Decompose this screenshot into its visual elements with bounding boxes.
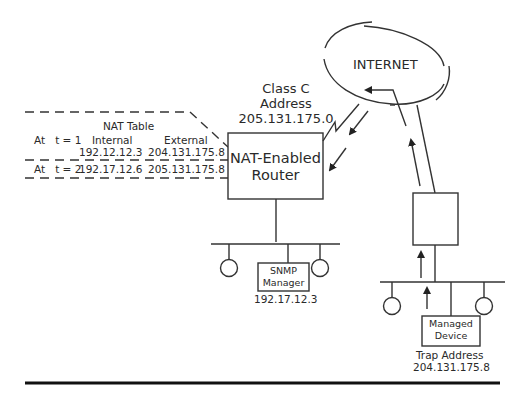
host-icon	[476, 298, 493, 315]
managed-device-label: Managed Device	[422, 318, 480, 342]
nat-row-2-external: 205.131.175.8	[148, 163, 225, 175]
edge-device-box	[413, 193, 458, 245]
trap-address-label: Trap Address	[416, 349, 483, 361]
managed-line2: Device	[422, 330, 480, 342]
nat-table-title: NAT Table	[103, 120, 154, 132]
router-label: NAT-Enabled Router	[228, 150, 323, 184]
managed-line1: Managed	[422, 318, 480, 330]
internet-label: INTERNET	[353, 57, 418, 72]
snmp-manager-address: 192.17.12.3	[254, 293, 317, 305]
trap-address-value: 204.131.175.8	[413, 361, 490, 373]
host-icon	[384, 298, 401, 315]
arrow-icon	[330, 148, 346, 170]
snmp-manager-label: SNMP Manager	[258, 265, 309, 289]
host-icon	[221, 260, 238, 277]
nat-row-1-time: At t = 1	[34, 134, 81, 146]
class-c-address: 205.131.175.0	[236, 111, 336, 126]
arrow-icon	[366, 90, 406, 126]
nat-row-2-internal: 192.17.12.6	[79, 163, 142, 175]
nat-row-1-internal: 192.12.12.3	[79, 146, 142, 158]
snmp-line1: SNMP	[258, 265, 309, 277]
nat-col-external: External	[164, 134, 208, 146]
class-c-label: Class C Address 205.131.175.0	[236, 81, 336, 126]
host-icon	[312, 260, 329, 277]
arrow-icon	[350, 111, 368, 134]
arrow-icon	[411, 140, 420, 186]
router-line1: NAT-Enabled	[228, 150, 323, 167]
router-line2: Router	[228, 167, 323, 184]
nat-row-2-time: At t = 2	[34, 163, 81, 175]
class-c-line1: Class C	[236, 81, 336, 96]
snmp-line2: Manager	[258, 277, 309, 289]
nat-row-1-external: 204.131.175.8	[148, 146, 225, 158]
nat-col-internal: Internal	[92, 134, 132, 146]
class-c-line2: Address	[236, 96, 336, 111]
